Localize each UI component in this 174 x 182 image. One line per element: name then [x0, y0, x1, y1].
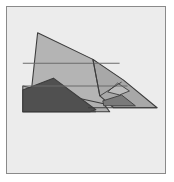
paper-airplane-illustration: Grayscale line drawing of a folded paper… [7, 7, 165, 173]
figure-frame: Grayscale line drawing of a folded paper… [6, 6, 166, 174]
image-canvas: Grayscale line drawing of a folded paper… [0, 0, 174, 182]
